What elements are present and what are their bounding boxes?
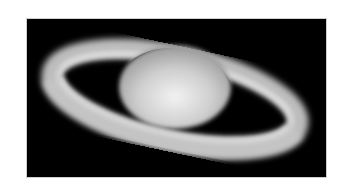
saturn-image (27, 19, 326, 177)
planet-body (119, 45, 231, 129)
photo-frame (27, 19, 326, 177)
